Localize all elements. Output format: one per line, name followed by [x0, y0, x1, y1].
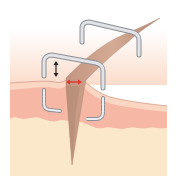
diagram-canvas [0, 0, 178, 190]
skin-staple-illustration [0, 0, 178, 190]
